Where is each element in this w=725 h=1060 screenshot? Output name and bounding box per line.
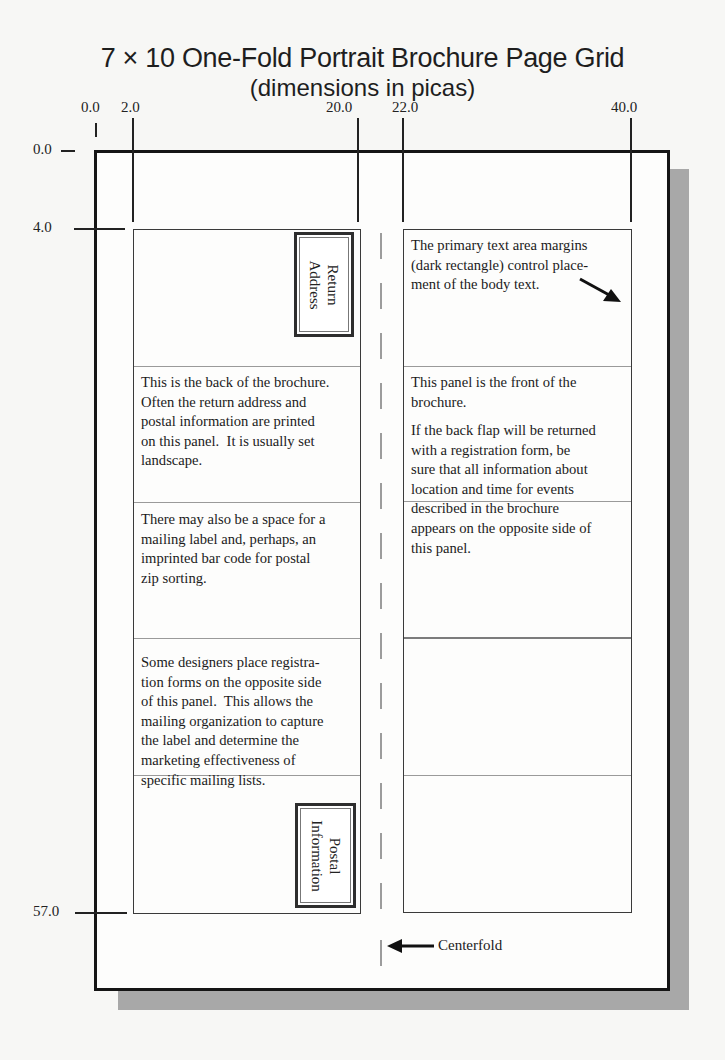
right-panel-divider-3: [404, 637, 631, 639]
centerfold-dash: [380, 883, 382, 909]
y-tick-line-0: [61, 150, 75, 152]
x-tick-label-40: 40.0: [611, 99, 637, 116]
left-panel-mailing-text: There may also be a space for a mailing …: [141, 510, 325, 588]
x-tick-label-2: 2.0: [121, 99, 140, 116]
right-panel-front: [403, 229, 632, 913]
x-tick-line-22: [402, 118, 404, 222]
x-tick-line-40: [630, 118, 632, 222]
return-address-box: Return Address: [294, 232, 354, 337]
centerfold-dash: [380, 483, 382, 509]
left-panel-registration-text: Some designers place registra- tion form…: [141, 653, 324, 790]
right-panel-flap-text: If the back flap will be returned with a…: [411, 421, 596, 558]
left-panel-divider-1: [134, 366, 360, 367]
centerfold-dash: [380, 333, 382, 359]
x-tick-line-0: [95, 123, 97, 137]
right-panel-divider-4: [404, 775, 631, 776]
postal-information-box: Postal Information: [295, 803, 356, 908]
x-tick-label-20: 20.0: [326, 99, 352, 116]
left-panel-back-text: This is the back of the brochure. Often …: [141, 373, 329, 471]
diagram-title: 7 × 10 One-Fold Portrait Brochure Page G…: [0, 43, 725, 74]
x-tick-line-20: [357, 118, 359, 222]
centerfold-dash: [380, 533, 382, 559]
left-panel-divider-3: [134, 638, 360, 639]
centerfold-dash: [380, 683, 382, 709]
centerfold-dash: [380, 633, 382, 659]
y-tick-line-4: [74, 228, 125, 230]
diagram-subtitle: (dimensions in picas): [0, 74, 725, 102]
centerfold-label: Centerfold: [438, 937, 502, 954]
centerfold-dash: [380, 283, 382, 309]
centerfold-dash: [380, 733, 382, 759]
y-tick-line-57: [75, 912, 127, 914]
arrow-pointer-icon: [575, 274, 627, 308]
y-tick-label-0: 0.0: [33, 141, 52, 158]
centerfold-dash: [380, 833, 382, 859]
return-address-label: Return Address: [306, 260, 342, 309]
centerfold-dash: [380, 233, 382, 259]
centerfold-dash: [380, 783, 382, 809]
x-tick-label-22: 22.0: [392, 99, 418, 116]
left-panel-divider-2: [134, 502, 360, 503]
x-tick-line-2: [132, 118, 134, 222]
right-panel-margins-text: The primary text area margins (dark rect…: [411, 236, 588, 295]
centerfold-dash: [380, 583, 382, 609]
y-tick-label-4: 4.0: [33, 219, 52, 236]
x-tick-label-0: 0.0: [81, 99, 100, 116]
centerfold-dash: [380, 383, 382, 409]
y-tick-label-57: 57.0: [33, 903, 59, 920]
postal-information-label: Postal Information: [308, 820, 344, 892]
right-panel-divider-1: [404, 366, 631, 367]
centerfold-arrow-icon: [386, 938, 436, 954]
right-panel-front-text: This panel is the front of the brochure.: [411, 373, 576, 412]
centerfold-dash: [380, 433, 382, 459]
centerfold-dash: [380, 940, 382, 966]
